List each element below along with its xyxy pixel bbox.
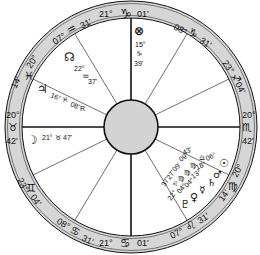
mc-label: 21° ♑ 01' <box>99 6 149 21</box>
svg-text:42': 42' <box>6 136 18 146</box>
svg-text:☊: ☊ <box>64 50 75 64</box>
svg-text:♑: ♑ <box>120 6 132 21</box>
svg-text:01': 01' <box>137 238 149 248</box>
svg-text:♓: ♓ <box>62 96 68 104</box>
svg-text:♄: ♄ <box>207 177 216 188</box>
center-hub <box>104 100 158 154</box>
svg-text:42': 42' <box>242 136 254 146</box>
svg-text:20°: 20° <box>242 110 256 120</box>
svg-text:21°: 21° <box>99 238 113 248</box>
svg-text:♉: ♉ <box>55 134 61 142</box>
svg-text:20°: 20° <box>6 110 20 120</box>
svg-text:21°: 21° <box>42 134 53 141</box>
svg-text:♍: ♍ <box>228 180 238 193</box>
svg-text:01': 01' <box>137 9 149 19</box>
natal-chart-wheel: 21° ♑ 01' 21° ♋ 01' 20° ♉ 42' 20° ♏ 42' … <box>0 0 260 255</box>
svg-text:♍: ♍ <box>190 162 196 170</box>
svg-text:⊗: ⊗ <box>134 24 144 38</box>
svg-text:♑: ♑ <box>136 50 142 58</box>
svg-text:☿: ☿ <box>199 184 205 195</box>
svg-text:♀: ♀ <box>190 191 198 204</box>
svg-text:R: R <box>80 105 85 112</box>
svg-text:21°: 21° <box>99 9 113 19</box>
svg-text:39': 39' <box>134 60 143 67</box>
svg-text:37': 37' <box>88 78 97 85</box>
svg-text:47': 47' <box>63 134 72 141</box>
svg-text:♋: ♋ <box>120 236 131 250</box>
svg-text:22°: 22° <box>74 65 85 72</box>
ic-label: 21° ♋ 01' <box>99 236 149 250</box>
svg-text:♏: ♏ <box>242 121 252 134</box>
svg-text:☽: ☽ <box>27 133 38 147</box>
svg-text:♌: ♌ <box>172 180 178 188</box>
svg-text:♓: ♓ <box>24 70 34 83</box>
svg-text:♉: ♉ <box>8 121 18 134</box>
svg-text:♃: ♃ <box>37 82 48 96</box>
svg-text:♇: ♇ <box>180 198 190 211</box>
svg-text:15°: 15° <box>135 41 146 48</box>
